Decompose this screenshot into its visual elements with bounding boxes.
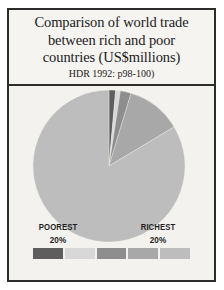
page-title: Comparison of world trade between rich a… — [9, 14, 214, 67]
legend: POOREST 20% RICHEST 20% — [9, 222, 214, 274]
legend-label-richest: RICHEST — [130, 222, 187, 232]
legend-percent-poorest: 20% — [30, 234, 87, 245]
plot-area: POOREST 20% RICHEST 20% — [9, 86, 214, 280]
legend-swatch — [128, 248, 158, 259]
title-line-2: between rich and poor — [12, 32, 211, 50]
legend-swatch-row — [33, 248, 190, 259]
legend-percent-richest: 20% — [130, 234, 187, 245]
pie-slice-group — [33, 90, 185, 242]
legend-swatch — [65, 248, 95, 259]
legend-swatch — [160, 248, 190, 259]
legend-swatch — [33, 248, 63, 259]
figure-header: Comparison of world trade between rich a… — [9, 10, 214, 86]
title-line-3: countries (US$millions) — [12, 49, 211, 67]
legend-label-poorest: POOREST — [30, 222, 87, 232]
figure-frame: Comparison of world trade between rich a… — [7, 8, 216, 282]
figure-source-note: HDR 1992: p98-100) — [9, 68, 214, 80]
title-line-1: Comparison of world trade — [12, 14, 211, 32]
legend-swatch — [97, 248, 127, 259]
